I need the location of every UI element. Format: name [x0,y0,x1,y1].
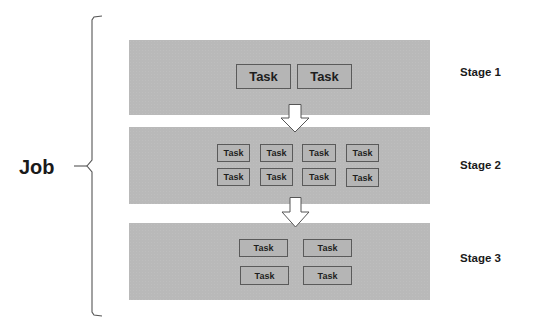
stage-2-task: Task [217,168,250,186]
stage-3-task: Task [303,239,352,257]
stage-3-label: Stage 3 [460,252,501,264]
stage-3-task: Task [239,239,288,257]
stage-2-task: Task [260,144,293,162]
stage-2-task: Task [346,168,379,187]
stage-1-task: Task [236,64,291,89]
stage-3-task: Task [240,266,289,285]
stage-2-task: Task [302,144,336,162]
stage-2-panel [129,127,430,204]
stage-2-label: Stage 2 [460,159,501,171]
stage-2-task: Task [217,144,250,162]
stage-3-panel [129,223,430,300]
stage-1-label: Stage 1 [460,66,501,78]
down-arrow-icon [281,197,311,229]
down-arrow-icon [280,104,310,134]
stage-2-task: Task [346,144,379,162]
stage-3-task: Task [303,266,352,285]
stage-2-task: Task [260,168,293,186]
stage-2-task: Task [302,168,336,186]
job-label: Job [19,156,55,179]
stage-1-task: Task [297,64,352,89]
job-brace [70,14,110,314]
